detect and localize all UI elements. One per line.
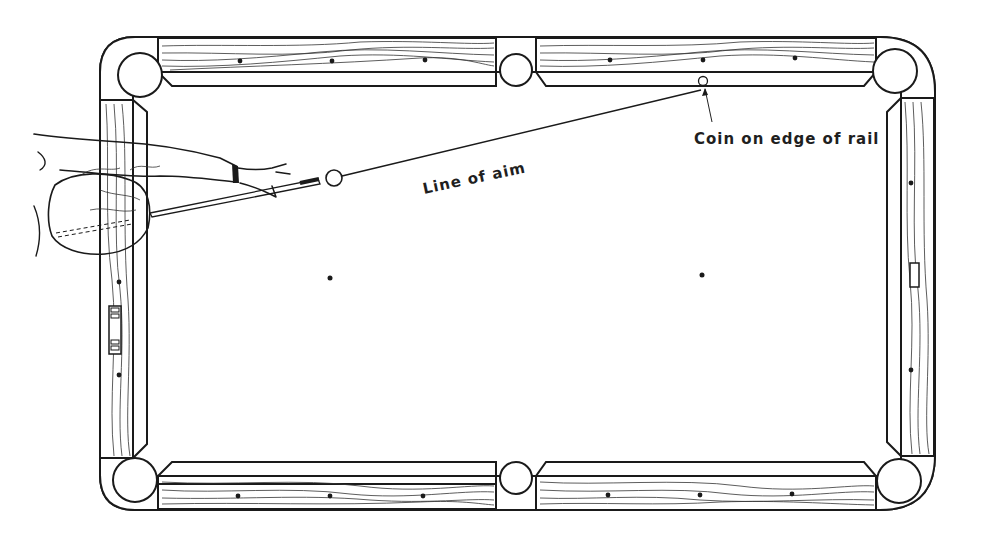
head-spot [328, 276, 333, 281]
top-rail-right [536, 38, 876, 72]
cue-stick [150, 179, 320, 217]
pocket-top-right [873, 37, 935, 98]
pocket-bottom-right [876, 455, 935, 510]
pocket-bottom-left [100, 458, 158, 510]
score-counter [910, 263, 919, 287]
coin [699, 77, 708, 86]
table-frame [100, 37, 935, 510]
line-of-aim-label: Line of aim [421, 159, 527, 198]
left-rail [100, 100, 133, 458]
bottom-rail-right [536, 476, 876, 510]
bottom-rail-left [158, 476, 496, 510]
pool-table-diagram: Line of aim Coin on edge of rail [0, 0, 982, 546]
pocket-top-left [100, 37, 162, 100]
pocket-top-side [496, 37, 536, 86]
top-rail-left [158, 38, 496, 72]
coin-label: Coin on edge of rail [694, 130, 879, 148]
cue-ball [326, 170, 342, 186]
pocket-bottom-side [496, 462, 536, 510]
right-rail [901, 98, 934, 456]
foot-spot [700, 273, 705, 278]
